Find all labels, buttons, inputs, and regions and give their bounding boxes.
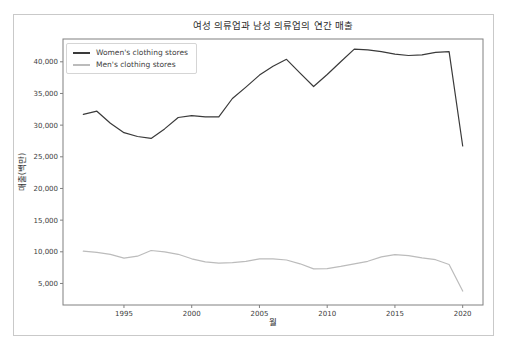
legend-item: Men's clothing stores [73, 60, 188, 69]
axes-spines [63, 39, 483, 305]
y-tick-label: 10,000 [34, 248, 59, 256]
y-axis-label: 매출(백만) [15, 153, 27, 192]
legend-line-swatch [73, 52, 90, 54]
y-tick-label: 5,000 [38, 280, 58, 288]
figure-canvas: 1995200020052010201520205,00010,00015,00… [0, 0, 506, 348]
legend-line-swatch [73, 64, 90, 66]
y-tick-label: 20,000 [34, 185, 59, 193]
y-tick-label: 15,000 [34, 217, 59, 225]
x-axis-label: 월 [63, 315, 483, 327]
legend-label: Men's clothing stores [96, 60, 176, 69]
legend: Women's clothing storesMen's clothing st… [66, 43, 197, 74]
y-tick-label: 30,000 [34, 122, 59, 130]
y-tick-label: 40,000 [34, 58, 59, 66]
y-tick-label: 35,000 [34, 90, 59, 98]
legend-label: Women's clothing stores [96, 48, 188, 57]
y-tick-label: 25,000 [34, 153, 59, 161]
legend-item: Women's clothing stores [73, 48, 188, 57]
series-line-1 [83, 251, 462, 292]
chart-title: 여성 의류업과 남성 의류업의 연간 매출 [63, 18, 483, 32]
